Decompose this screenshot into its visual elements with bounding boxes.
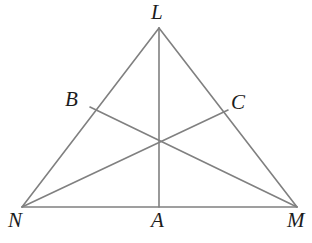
segment-median-MB — [90, 107, 297, 207]
geometry-diagram: L B C N A M — [0, 0, 312, 243]
vertex-label-M: M — [287, 210, 305, 231]
segment-side-LN — [22, 28, 159, 207]
vertex-label-C: C — [231, 92, 245, 113]
vertex-label-B: B — [65, 89, 78, 110]
vertex-label-L: L — [151, 2, 163, 23]
vertex-label-A: A — [151, 210, 164, 231]
vertex-label-N: N — [8, 210, 22, 231]
segment-layer — [22, 28, 297, 207]
triangle-figure — [0, 0, 312, 243]
segment-side-LM — [159, 28, 297, 207]
